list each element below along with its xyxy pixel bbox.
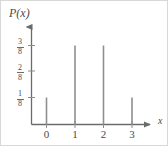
y-tick-label-3-8-numerator: 3 <box>13 38 27 46</box>
probability-mass-function-figure: P(x) x 3 8 2 8 1 8 0 1 2 3 <box>0 0 168 146</box>
y-tick-label-3-8: 3 8 <box>13 38 27 57</box>
y-tick-label-2-8: 2 8 <box>13 64 27 83</box>
y-tick-label-2-8-numerator: 2 <box>13 64 27 72</box>
y-tick-label-1-8-denominator: 8 <box>13 100 27 108</box>
y-tick-label-1-8: 1 8 <box>13 90 27 109</box>
y-tick-label-1-8-numerator: 1 <box>13 90 27 98</box>
y-axis-title: P(x) <box>9 7 30 19</box>
x-axis-title: x <box>158 116 162 126</box>
x-tick-label-0: 0 <box>39 129 55 140</box>
y-tick-label-3-8-denominator: 8 <box>13 48 27 56</box>
x-tick-label-3: 3 <box>124 129 140 140</box>
x-tick-label-2: 2 <box>96 129 112 140</box>
x-tick-label-1: 1 <box>67 129 83 140</box>
y-tick-label-2-8-denominator: 8 <box>13 74 27 82</box>
